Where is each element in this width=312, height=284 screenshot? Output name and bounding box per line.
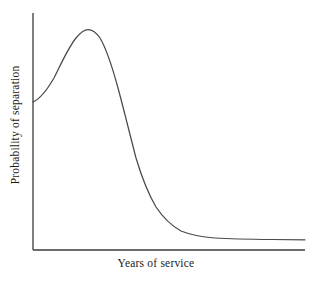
x-axis-title: Years of service bbox=[0, 257, 312, 269]
y-axis-title-label: Probability of separation bbox=[9, 66, 21, 185]
chart-figure: Probability of separation Years of servi… bbox=[0, 0, 312, 284]
x-axis-title-label: Years of service bbox=[118, 257, 195, 269]
y-axis-title: Probability of separation bbox=[0, 0, 30, 250]
probability-of-separation-curve bbox=[33, 30, 305, 240]
chart-plot-area bbox=[0, 0, 312, 284]
